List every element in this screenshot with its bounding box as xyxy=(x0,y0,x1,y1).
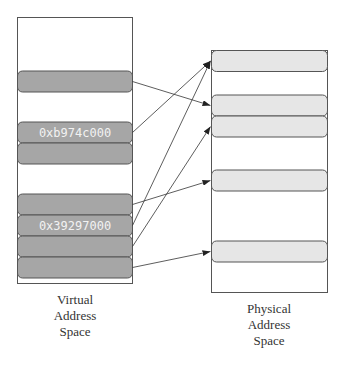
mapping-arrow xyxy=(133,61,211,226)
virtual-address-label: 0x39297000 xyxy=(39,219,111,233)
virtual-page-slot xyxy=(18,236,133,257)
mapping-arrow xyxy=(133,252,211,268)
physical-caption-line-1: Physical xyxy=(247,301,291,316)
virtual-caption-line-1: Virtual xyxy=(57,292,93,307)
physical-caption-line-2: Address xyxy=(248,317,291,332)
physical-page-slot xyxy=(212,95,328,116)
virtual-caption-line-2: Address xyxy=(54,308,97,323)
physical-address-space: Physical Address Space xyxy=(212,51,328,349)
virtual-caption-line-3: Space xyxy=(59,324,90,339)
virtual-address-label: 0xb974c000 xyxy=(39,126,111,140)
physical-page-slot xyxy=(212,116,328,137)
mapping-arrow xyxy=(133,61,211,133)
mapping-arrow xyxy=(133,127,211,247)
physical-page-slot xyxy=(212,241,328,262)
mapping-arrows xyxy=(133,61,211,268)
address-translation-diagram: 0xb974c0000x39297000 Virtual Address Spa… xyxy=(0,0,343,384)
virtual-address-space: 0xb974c0000x39297000 Virtual Address Spa… xyxy=(18,18,133,340)
physical-page-slot xyxy=(212,51,328,72)
virtual-page-slot xyxy=(18,194,133,215)
physical-page-slot xyxy=(212,170,328,191)
virtual-page-slot xyxy=(18,143,133,164)
virtual-page-slot xyxy=(18,257,133,278)
virtual-page-slot xyxy=(18,71,133,92)
physical-caption-line-3: Space xyxy=(253,333,284,348)
